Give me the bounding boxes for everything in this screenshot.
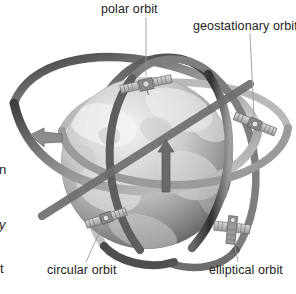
orbit-diagram-figure: polar orbit geostationary orbit circular… — [0, 0, 296, 294]
label-elliptical-orbit: elliptical orbit — [209, 264, 283, 277]
diagram-canvas — [0, 0, 296, 294]
label-geostationary-orbit: geostationary orbit — [193, 20, 296, 33]
leader-line-geostationary — [250, 33, 254, 118]
edge-text-fragment-n: n — [0, 163, 6, 176]
label-polar-orbit: polar orbit — [101, 3, 158, 16]
label-circular-orbit: circular orbit — [47, 264, 116, 277]
edge-text-fragment-t: t — [0, 262, 4, 275]
edge-text-fragment-y: y — [0, 218, 6, 231]
